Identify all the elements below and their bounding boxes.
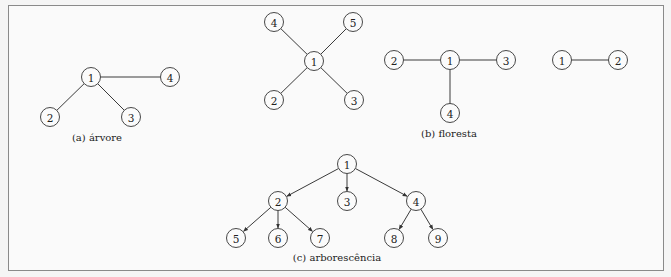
graph-b-comp2-node-1: 1 xyxy=(441,51,460,70)
node-label: 1 xyxy=(344,159,351,171)
graph-b-comp1-edge-1-3 xyxy=(321,68,347,94)
node-label: 3 xyxy=(344,196,351,208)
graph-a-node-3: 3 xyxy=(122,108,141,127)
graph-a-node-1: 1 xyxy=(82,68,101,87)
graph-c-node-5: 5 xyxy=(227,229,246,248)
graph-a-edge-1-3 xyxy=(98,84,125,111)
node-label: 6 xyxy=(275,233,282,245)
node-label: 4 xyxy=(447,108,454,120)
graph-c-node-8: 8 xyxy=(385,229,404,248)
node-label: 1 xyxy=(88,72,95,84)
graph-c-node-2: 2 xyxy=(269,192,288,211)
node-label: 2 xyxy=(271,95,278,107)
graph-c-edge-4-9 xyxy=(421,209,433,229)
caption-a-arvore: (a) árvore xyxy=(72,132,122,143)
node-label: 2 xyxy=(47,112,54,124)
node-label: 4 xyxy=(271,17,278,29)
graph-a-edge-1-2 xyxy=(57,84,84,111)
graph-c-node-9: 9 xyxy=(429,229,448,248)
node-label: 7 xyxy=(317,233,324,245)
graph-c-edge-4-8 xyxy=(399,209,411,229)
node-label: 5 xyxy=(350,17,357,29)
graph-b-comp1-node-4: 4 xyxy=(265,13,284,32)
graph-a-node-4: 4 xyxy=(161,68,180,87)
graph-c-edge-2-5 xyxy=(244,207,271,231)
node-label: 1 xyxy=(447,55,454,67)
graph-b-comp2-node-3: 3 xyxy=(497,51,516,70)
node-label: 9 xyxy=(435,233,442,245)
graph-b-comp1-node-5: 5 xyxy=(344,13,363,32)
graph-c-node-1: 1 xyxy=(338,155,357,174)
graph-b-comp1-edge-1-5 xyxy=(321,29,347,55)
node-label: 3 xyxy=(503,55,510,67)
graph-b-comp3-node-1: 1 xyxy=(553,51,572,70)
node-label: 8 xyxy=(391,233,398,245)
graph-c-node-4: 4 xyxy=(407,192,426,211)
graph-figure: 142345123213412123456789 (a) árvore (b) … xyxy=(0,0,671,277)
node-label: 3 xyxy=(128,112,135,124)
node-label: 2 xyxy=(275,196,282,208)
node-label: 4 xyxy=(413,196,420,208)
graph-b-comp1-node-2: 2 xyxy=(265,91,284,110)
node-label: 1 xyxy=(559,55,566,67)
graph-c-node-7: 7 xyxy=(311,229,330,248)
graph-c-node-6: 6 xyxy=(269,229,288,248)
caption-c-arborescencia: (c) arborescência xyxy=(293,252,381,263)
graph-b-comp3-node-2: 2 xyxy=(609,51,628,70)
graph-c-edge-1-4 xyxy=(355,168,407,196)
graph-c-node-3: 3 xyxy=(338,192,357,211)
graph-b-comp2-node-4: 4 xyxy=(441,104,460,123)
node-label: 3 xyxy=(351,95,358,107)
node-label: 5 xyxy=(233,233,240,245)
graph-b-comp1-edge-1-2 xyxy=(281,68,307,94)
node-label: 2 xyxy=(391,55,398,67)
graph-b-comp1-node-1: 1 xyxy=(305,52,324,71)
graph-b-comp1-node-3: 3 xyxy=(345,91,364,110)
node-label: 2 xyxy=(615,55,622,67)
graph-b-comp2-node-2: 2 xyxy=(385,51,404,70)
graph-c-edge-1-2 xyxy=(287,168,339,196)
graph-a-node-2: 2 xyxy=(41,108,60,127)
graph-b-comp1-edge-1-4 xyxy=(281,29,307,55)
node-label: 4 xyxy=(167,72,174,84)
graph-c-edge-2-7 xyxy=(285,207,312,231)
node-label: 1 xyxy=(311,56,318,68)
caption-b-floresta: (b) floresta xyxy=(421,128,477,139)
